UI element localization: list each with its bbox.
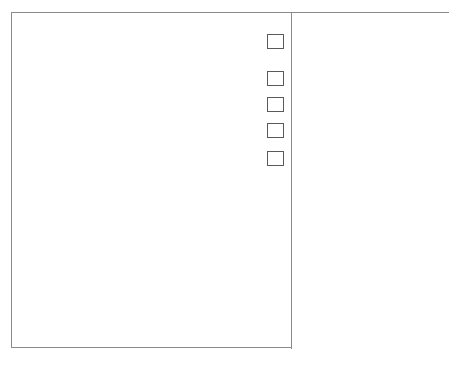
legend-panel xyxy=(291,13,450,349)
chart-area xyxy=(12,13,291,349)
callout-label-5 xyxy=(267,97,284,112)
callout-label-9 xyxy=(267,34,284,49)
callout-label-7 xyxy=(267,71,284,86)
callout-label-1 xyxy=(267,151,284,166)
callout-label-3 xyxy=(267,123,284,138)
figure-root xyxy=(0,0,462,366)
figure-frame xyxy=(11,12,449,348)
velocity-slope-log-log-plot xyxy=(12,13,291,349)
